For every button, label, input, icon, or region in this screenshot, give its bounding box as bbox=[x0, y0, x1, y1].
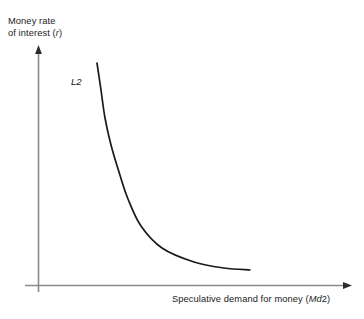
curve-label-l2: L2 bbox=[71, 76, 82, 87]
x-axis-label: Speculative demand for money (Md2) bbox=[172, 293, 330, 305]
y-axis-label-line1: Money rate bbox=[8, 16, 55, 26]
curve-label-subscript: 2 bbox=[76, 76, 81, 87]
l2-demand-curve bbox=[97, 63, 250, 270]
x-axis-label-suffix: 2) bbox=[322, 294, 330, 304]
liquidity-preference-chart: Money rate of interest (r) Speculative d… bbox=[0, 0, 364, 319]
chart-canvas bbox=[0, 0, 364, 319]
y-axis-label: Money rate of interest (r) bbox=[8, 15, 62, 39]
y-axis-arrowhead-icon bbox=[35, 45, 42, 54]
y-axis-label-line2-suffix: ) bbox=[59, 28, 62, 38]
x-axis-label-symbol: Md bbox=[309, 294, 322, 304]
x-axis-label-prefix: Speculative demand for money ( bbox=[172, 294, 309, 304]
y-axis-label-line2-prefix: of interest ( bbox=[8, 28, 56, 38]
x-axis-arrowhead-icon bbox=[343, 282, 352, 289]
